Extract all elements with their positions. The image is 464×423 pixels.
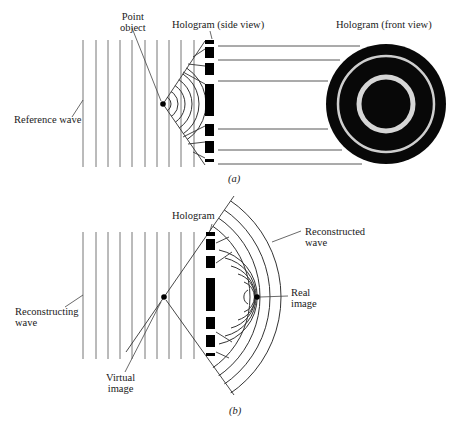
label-virtual-line1: Virtual [106,372,135,383]
label-reconstructed-line1: Reconstructed [305,226,365,237]
label-real-line2: image [291,298,317,309]
reference-wave-fronts [83,40,194,167]
label-real-image: Real image [291,287,317,309]
label-reconstructing-line1: Reconstructing [15,306,79,317]
label-reconstructing-line2: wave [15,317,79,328]
label-point-object: Point object [120,11,146,33]
hologram-side-view [205,40,214,162]
panel-a [72,28,446,167]
label-virtual-line2: image [106,383,135,394]
caption-a: (a) [228,173,240,184]
real-image-dot [254,294,260,300]
hologram-b [206,232,215,356]
hologram-front-view [326,44,446,164]
label-point-object-line2: object [120,22,146,33]
inner-wave-arcs [219,250,257,344]
label-virtual-image: Virtual image [106,372,135,394]
hologram-diagram: Point object Hologram (side view) Hologr… [0,0,464,423]
label-real-line1: Real [291,287,317,298]
label-reference-wave: Reference wave [14,114,81,125]
label-hologram-front-view: Hologram (front view) [336,19,432,30]
label-point-object-line1: Point [120,11,146,22]
label-hologram-side-view: Hologram (side view) [172,19,264,30]
hatch-ticks-b [216,237,232,358]
caption-b: (b) [229,405,241,416]
label-reconstructing-wave: Reconstructing wave [15,306,79,328]
leader-lines-b [65,224,301,372]
virtual-image-dot [161,294,167,300]
label-reconstructed-wave: Reconstructed wave [305,226,365,248]
leader-lines-a [72,28,212,117]
diagram-canvas [0,0,464,423]
label-hologram-b: Hologram [172,210,215,221]
reconstructing-wave-fronts [83,232,194,359]
label-reconstructed-line2: wave [305,237,365,248]
point-object-dot [160,101,166,107]
virtual-cone [126,196,234,395]
